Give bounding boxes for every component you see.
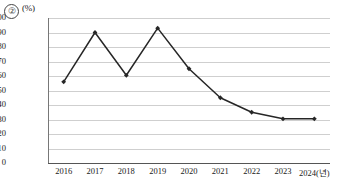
x-tick-label: 2017 <box>87 166 104 176</box>
y-axis-unit-label: (%) <box>22 3 35 13</box>
x-tick-label: 2020 <box>181 166 198 176</box>
x-tick-label: 2024(년) <box>299 166 330 178</box>
series-line <box>64 28 315 119</box>
x-tick-label: 2016 <box>55 166 72 176</box>
plot-area <box>48 18 330 163</box>
x-tick-label: 2022 <box>243 166 260 176</box>
chart-figure: ② (%) 1009080706050403020100 20162017201… <box>0 0 342 186</box>
x-axis-line <box>48 163 330 164</box>
data-point-marker <box>249 110 254 115</box>
x-tick-label: 2019 <box>149 166 166 176</box>
x-tick-label: 2018 <box>118 166 135 176</box>
x-tick-label: 2021 <box>212 166 229 176</box>
x-tick-label: 2023 <box>275 166 292 176</box>
data-point-marker <box>312 116 317 121</box>
data-point-marker <box>281 116 286 121</box>
item-number-marker: ② <box>4 4 19 19</box>
line-series <box>48 18 330 163</box>
